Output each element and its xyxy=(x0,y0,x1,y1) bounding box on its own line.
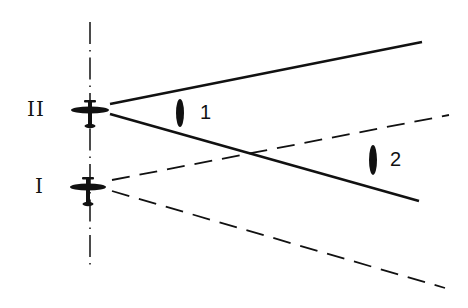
target-2-label: 2 xyxy=(390,148,401,171)
beam-ii-upper xyxy=(110,42,422,104)
beam-i-lower xyxy=(112,191,445,288)
aircraft-ii-label: II xyxy=(27,97,45,121)
aircraft-ii-icon xyxy=(71,100,109,128)
target-2-icon xyxy=(369,145,377,175)
target-1-icon xyxy=(176,99,184,127)
target-1-label: 1 xyxy=(200,101,211,124)
aircraft-i-label: I xyxy=(35,174,44,198)
aircraft-i-icon xyxy=(70,177,106,206)
